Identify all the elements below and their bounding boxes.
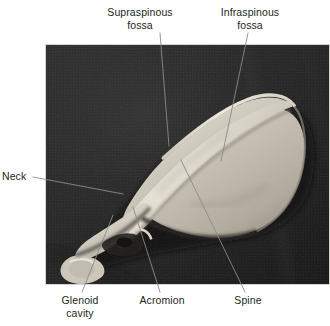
film-grain	[46, 45, 329, 284]
label-spine: Spine	[222, 294, 274, 307]
label-supraspinous-fossa: Supraspinous fossa	[90, 6, 190, 31]
label-neck: Neck	[2, 170, 46, 183]
scapula-photograph	[45, 44, 330, 285]
anatomy-figure: Supraspinous fossa Infraspinous fossa Ne…	[0, 0, 330, 326]
label-acromion: Acromion	[124, 294, 200, 307]
label-glenoid-cavity: Glenoid cavity	[42, 294, 118, 319]
photograph-canvas	[46, 45, 329, 284]
label-infraspinous-fossa: Infraspinous fossa	[202, 6, 298, 31]
